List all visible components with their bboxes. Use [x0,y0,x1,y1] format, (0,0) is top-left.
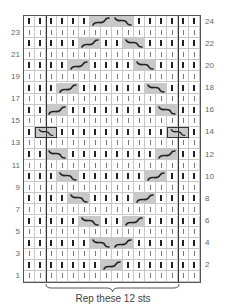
stitch-cell [134,238,145,249]
stitch-cell [90,260,101,271]
repeat-boundary-line [46,16,47,282]
knit-stitch-icon [106,163,107,168]
knit-stitch-icon [73,207,74,212]
knit-stitch-icon [94,195,96,201]
stitch-cell [57,49,68,60]
stitch-cell [156,193,167,204]
knit-stitch-icon [117,74,118,79]
row-number-label: 19 [4,73,20,81]
knit-stitch-icon [116,218,118,224]
cable-right-icon [134,193,156,204]
stitch-cell [189,182,200,193]
knit-stitch-icon [171,240,173,246]
cable-right-icon [145,171,167,182]
stitch-cell [145,249,156,260]
stitch-cell [145,182,156,193]
stitch-cell [167,238,178,249]
knit-stitch-icon [62,52,63,57]
stitch-cell [178,149,189,160]
stitch-cell [68,149,79,160]
knit-stitch-icon [182,107,184,113]
stitch-cell [156,127,167,138]
stitch-cell [90,227,101,238]
knit-stitch-icon [50,262,52,268]
knit-stitch-icon [40,118,41,123]
stitch-cell [112,49,123,60]
knit-stitch-icon [106,52,107,57]
stitch-cell [112,38,123,49]
stitch-cell [68,249,79,260]
knit-stitch-icon [73,96,74,101]
stitch-cell [178,193,189,204]
cable-right-icon [46,105,68,116]
stitch-cell [178,216,189,227]
knit-stitch-icon [39,40,41,46]
knit-stitch-icon [28,195,30,201]
stitch-cell [189,49,200,60]
stitch-cell [167,83,178,94]
stitch-cell [46,138,57,149]
knit-stitch-icon [105,107,107,113]
stitch-cell [167,60,178,71]
stitch-cell [46,249,57,260]
cable-right-icon [90,16,112,27]
stitch-cell [57,16,68,27]
stitch-cell [112,204,123,215]
knit-stitch-icon [128,229,129,234]
knit-stitch-icon [84,96,85,101]
stitch-cell [79,49,90,60]
knit-stitch-icon [39,62,41,68]
knit-stitch-icon [171,195,173,201]
knit-stitch-icon [127,107,129,113]
stitch-cell [101,27,112,38]
knit-stitch-icon [105,173,107,179]
stitch-cell [68,271,79,282]
stitch-cell [101,182,112,193]
knit-stitch-icon [182,262,184,268]
stitch-cell [79,116,90,127]
knit-stitch-icon [72,218,74,224]
knit-stitch-icon [39,151,41,157]
stitch-cell [189,60,200,71]
stitch-cell [46,27,57,38]
stitch-cell [57,204,68,215]
stitch-cell [134,138,145,149]
stitch-cell [101,105,112,116]
stitch-cell [134,260,145,271]
knit-stitch-icon [51,118,52,123]
knit-stitch-icon [139,140,140,145]
knit-stitch-icon [106,185,107,190]
stitch-cell [167,271,178,282]
knit-stitch-icon [171,85,173,91]
knit-stitch-icon [72,40,74,46]
stitch-cell [189,171,200,182]
stitch-cell [57,160,68,171]
stitch-cell [167,16,178,27]
knit-stitch-icon [139,273,140,278]
stitch-cell [123,160,134,171]
knit-stitch-icon [95,185,96,190]
knit-stitch-icon [72,151,74,157]
stitch-cell [145,49,156,60]
stitch-cell [35,160,46,171]
stitch-cell [79,204,90,215]
stitch-cell [112,227,123,238]
stitch-cell [79,238,90,249]
cable-left-icon [145,83,167,94]
knit-stitch-icon [29,163,30,168]
knit-stitch-icon [51,251,52,256]
knit-stitch-icon [193,40,195,46]
knit-stitch-icon [194,74,195,79]
knit-stitch-icon [61,40,63,46]
knit-stitch-icon [40,52,41,57]
knit-stitch-icon [50,85,52,91]
stitch-cell [90,171,101,182]
row-number-label: 4 [205,239,209,247]
knit-stitch-icon [160,195,162,201]
stitch-cell [145,238,156,249]
knit-stitch-icon [127,151,129,157]
stitch-cell [90,127,101,138]
knit-stitch-icon [117,273,118,278]
knit-stitch-icon [84,251,85,256]
knit-stitch-icon [117,140,118,145]
